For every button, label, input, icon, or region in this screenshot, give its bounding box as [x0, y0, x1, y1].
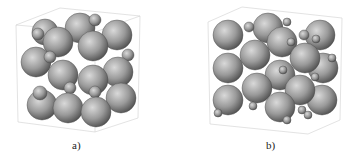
- spheres: [21, 13, 136, 127]
- panel-a: a): [0, 0, 180, 155]
- sphere-packing-a: [0, 0, 180, 155]
- spheres: [213, 13, 338, 124]
- sphere-packing-b: [180, 0, 363, 155]
- panel-b: b): [180, 0, 363, 155]
- panel-a-label: a): [72, 139, 81, 151]
- panel-b-label: b): [266, 139, 275, 151]
